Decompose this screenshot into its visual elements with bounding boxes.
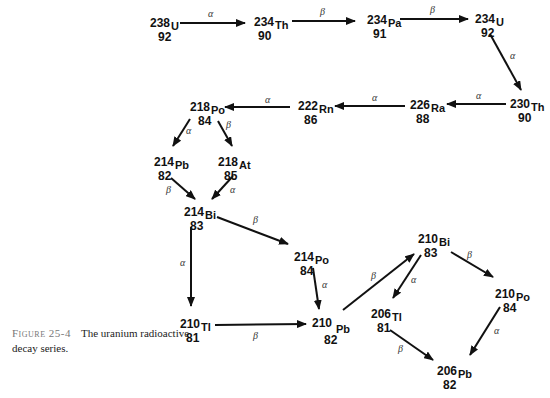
decay-label: α: [265, 94, 270, 105]
element-symbol: Pa: [388, 17, 401, 29]
nuclide-at218: 218At 85: [218, 153, 251, 182]
figure-caption: Figure 25-4The uranium radioactive decay…: [12, 326, 192, 356]
nuclide-pb214: 214Pb 82: [154, 153, 189, 182]
decay-series-diagram: 238U 92 234Th 90 234Pa 91 234U 92 230Th …: [0, 0, 550, 398]
decay-label: α: [180, 257, 185, 268]
nuclide-pb210: 210Pb 82: [312, 314, 350, 346]
element-symbol: U: [496, 16, 504, 28]
arrow-bi210-po210: [451, 252, 493, 277]
mass-number: 214: [184, 205, 204, 219]
element-symbol: At: [239, 159, 251, 171]
atomic-number: 84: [294, 265, 329, 277]
atomic-number: 81: [371, 322, 402, 334]
element-symbol: Tl: [201, 321, 211, 333]
element-symbol: Pb: [336, 323, 350, 335]
atomic-number: 92: [150, 31, 179, 43]
nuclide-th230: 230Th 90: [510, 95, 544, 124]
element-symbol: Po: [211, 104, 225, 116]
decay-label: α: [476, 90, 481, 101]
mass-number: 234: [367, 13, 387, 27]
decay-label: β: [430, 4, 435, 15]
decay-label: α: [322, 279, 327, 290]
atomic-number: 82: [437, 379, 472, 391]
nuclide-bi214: 214Bi 83: [184, 203, 216, 232]
decay-label: β: [467, 249, 472, 260]
decay-label: α: [372, 92, 377, 103]
nuclide-pa234: 234Pa 91: [367, 11, 402, 40]
mass-number: 206: [371, 307, 391, 321]
mass-number: 238: [150, 16, 170, 30]
decay-label: β: [398, 343, 403, 354]
atomic-number: 82: [154, 170, 189, 182]
element-symbol: Po: [315, 254, 329, 266]
element-symbol: Bi: [205, 209, 216, 221]
decay-label: β: [253, 330, 258, 341]
element-symbol: Th: [531, 101, 544, 113]
nuclide-tl206: 206Tl 81: [371, 305, 402, 334]
element-symbol: U: [171, 20, 179, 32]
atomic-number: 86: [298, 114, 334, 126]
decay-label: β: [253, 214, 258, 225]
element-symbol: Pb: [175, 159, 189, 171]
arrow-tl210-pb210: [215, 324, 306, 325]
decay-label: β: [371, 270, 376, 281]
atomic-number: 84: [495, 302, 530, 314]
nuclide-po218: 218Po 84: [190, 98, 225, 127]
decay-label: β: [166, 184, 171, 195]
mass-number: 214: [154, 155, 174, 169]
atomic-number: 83: [418, 247, 450, 259]
mass-number: 218: [190, 100, 210, 114]
atomic-number: 90: [254, 30, 288, 42]
arrow-u234-th230: [490, 34, 521, 90]
mass-number: 222: [298, 99, 318, 113]
atomic-number: 90: [510, 112, 544, 124]
decay-label: α: [208, 8, 213, 19]
nuclide-th234: 234Th 90: [254, 13, 288, 42]
mass-number: 214: [294, 250, 314, 264]
nuclide-po210: 210Po 84: [495, 285, 530, 314]
decay-label: α: [411, 274, 416, 285]
element-symbol: Bi: [439, 236, 450, 248]
nuclide-rn222: 222Rn 86: [298, 97, 334, 126]
mass-number: 218: [218, 155, 238, 169]
mass-number: 226: [410, 98, 430, 112]
mass-number: 230: [510, 97, 530, 111]
mass-number: 234: [475, 12, 495, 26]
mass-number: 210: [495, 287, 515, 301]
mass-number: 206: [437, 364, 457, 378]
decay-label: β: [320, 6, 325, 17]
atomic-number: 85: [218, 170, 251, 182]
figure-label: Figure 25-4: [12, 327, 71, 339]
element-symbol: Ra: [431, 102, 445, 114]
atomic-number: 84: [190, 115, 225, 127]
mass-number: 210: [312, 316, 332, 330]
nuclide-ra226: 226Ra 88: [410, 96, 445, 125]
atomic-number: 82: [312, 334, 350, 346]
element-symbol: Tl: [392, 311, 402, 323]
atomic-number: 88: [410, 113, 445, 125]
atomic-number: 83: [184, 220, 216, 232]
atomic-number: 92: [475, 27, 504, 39]
arrow-tl206-pb206: [390, 330, 433, 360]
nuclide-bi210: 210Bi 83: [418, 230, 450, 259]
mass-number: 210: [418, 232, 438, 246]
nuclide-u234: 234U 92: [475, 10, 504, 39]
arrow-bi210-tl206: [393, 255, 421, 298]
element-symbol: Po: [516, 291, 530, 303]
nuclide-pb206: 206Pb 82: [437, 362, 472, 391]
atomic-number: 91: [367, 28, 402, 40]
element-symbol: Pb: [458, 368, 472, 380]
decay-label: α: [510, 50, 515, 61]
decay-label: α: [494, 325, 499, 336]
decay-label: β: [226, 119, 231, 130]
decay-label: α: [230, 184, 235, 195]
element-symbol: Th: [275, 19, 288, 31]
nuclide-u238: 238U 92: [150, 14, 179, 43]
nuclide-po214: 214Po 84: [294, 248, 329, 277]
element-symbol: Rn: [319, 103, 334, 115]
decay-label: α: [186, 125, 191, 136]
mass-number: 234: [254, 15, 274, 29]
